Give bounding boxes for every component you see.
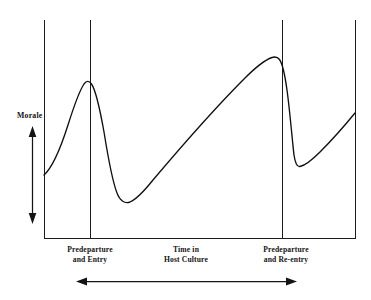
morale-double-arrow <box>29 126 37 224</box>
label-predeparture-entry-line1: Predeparture <box>67 245 113 254</box>
span-arrow-head-right <box>286 277 297 285</box>
morale-arrow-head-up <box>29 126 37 137</box>
label-predeparture-reentry-line1: Predeparture <box>263 245 309 254</box>
label-time-host-culture-line2: Host Culture <box>164 255 209 264</box>
w-curve-chart: Morale Predeparture and Entry Time in Ho… <box>0 0 371 300</box>
figure-root: Morale Predeparture and Entry Time in Ho… <box>0 0 371 300</box>
label-predeparture-entry-line2: and Entry <box>73 255 108 264</box>
morale-arrow-head-down <box>29 213 37 224</box>
label-time-host-culture-line1: Time in <box>173 245 200 254</box>
span-arrow-head-left <box>76 277 87 285</box>
morale-axis-label: Morale <box>17 111 43 120</box>
time-span-double-arrow <box>76 277 297 285</box>
label-predeparture-reentry-line2: and Re-entry <box>264 255 309 264</box>
